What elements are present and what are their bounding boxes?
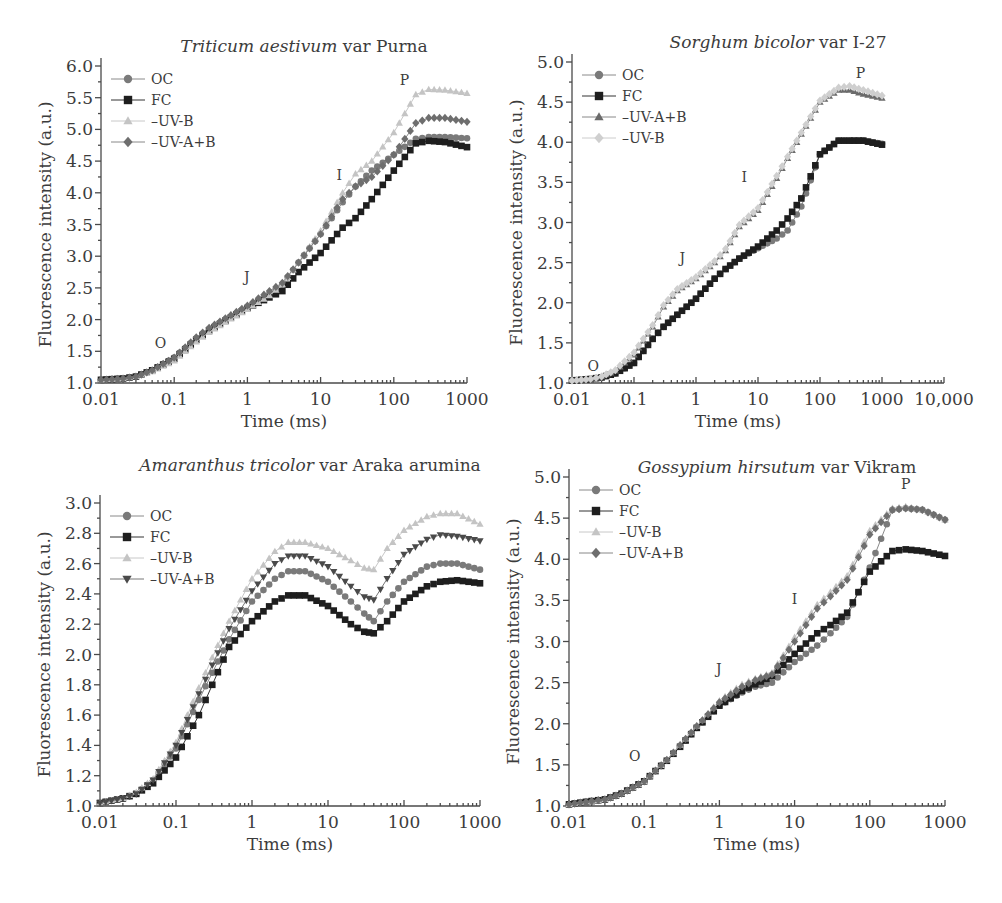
y-axis-title: Fluorescence intensity (a.u.) [503,518,523,764]
data-point-marker [401,110,408,116]
data-point-marker [797,655,804,662]
legend-item: FC [110,529,170,545]
y-tick-label: 5.0 [537,52,564,72]
legend-item: –UV-B [582,130,665,146]
data-point-marker [379,182,386,189]
data-point-marker [237,631,244,638]
chart-title-species: Amaranthus tricolor [137,455,314,475]
data-point-marker [302,568,309,575]
legend-label: –UV-A+B [622,109,686,125]
data-point-marker [401,578,408,585]
y-tick-label: 2.5 [534,673,561,693]
chart-title-variety: var Vikram [815,457,916,477]
y-tick-label: 1.2 [65,766,92,786]
data-point-marker [878,535,885,542]
data-point-marker [260,587,267,594]
chart-title-species: Gossypium hirsutum [638,457,816,477]
chart-sorghum: Sorghum bicolor var I-270.010.1110100100… [506,32,974,431]
data-point-marker [437,560,444,567]
phase-label-p: P [400,72,409,88]
data-point-marker [400,526,407,532]
legend-marker-icon [595,92,603,100]
data-point-marker [278,543,285,549]
legend-label: FC [622,88,642,104]
data-point-marker [328,237,335,244]
data-point-marker [254,592,261,599]
legend-marker-icon [124,96,132,104]
legend-label: FC [619,503,639,519]
data-point-marker [323,243,330,250]
data-point-marker [406,575,413,582]
data-point-marker [377,608,384,615]
y-tick-label: 6.0 [66,56,93,76]
data-point-marker [803,184,810,191]
data-point-marker [202,697,209,704]
data-point-marker [418,516,425,522]
legend-item: OC [111,71,173,87]
figure-canvas: Triticum aestivum var Purna0.010.1110100… [0,0,1002,903]
x-tick-label: 1000 [445,389,488,409]
phase-label-p: P [856,65,865,81]
data-point-marker [855,589,862,596]
series-line [572,141,882,381]
data-point-marker [448,577,455,584]
data-point-marker [850,599,857,606]
data-point-marker [370,597,377,603]
data-point-marker [412,571,419,578]
data-point-marker [773,227,780,234]
y-tick-label: 3.0 [534,632,561,652]
data-point-marker [161,767,168,774]
chart-title: Triticum aestivum var Purna [180,36,427,56]
data-point-marker [889,548,896,555]
y-tick-label: 1.0 [66,373,93,393]
y-tick-label: 3.5 [66,215,93,235]
data-point-marker [814,642,821,649]
data-point-marker [336,588,343,595]
data-point-marker [791,651,798,658]
data-point-marker [178,744,185,751]
data-point-marker [418,541,425,547]
data-point-marker [167,761,174,768]
y-tick-label: 1.8 [65,675,92,695]
legend-marker-icon [122,553,131,561]
legend-label: OC [151,71,173,87]
data-point-marker [464,135,471,142]
legend-item: –UV-A+B [579,545,683,561]
legend-marker-icon [123,512,131,520]
data-point-marker [406,594,413,601]
legend-marker-icon [123,137,132,148]
data-point-marker [793,202,800,209]
data-point-marker [249,618,256,625]
data-point-marker [243,624,250,631]
legend-item: –UV-B [110,550,193,566]
x-tick-label: 1 [714,812,725,832]
x-axis-title: Time (ms) [714,834,800,854]
data-point-marker [430,562,437,569]
x-tick-label: 10,000 [914,389,973,409]
data-point-marker [883,553,890,560]
y-tick-label: 3.0 [66,246,93,266]
data-point-marker [930,550,937,557]
x-tick-label: 0.1 [161,389,188,409]
legend-label: OC [619,482,641,498]
data-point-marker [342,616,349,623]
data-point-marker [308,571,315,578]
data-point-marker [330,583,337,590]
data-point-marker [363,202,370,209]
series-fc [98,138,471,384]
y-tick-label: 2.2 [65,614,92,634]
y-tick-label: 1.0 [65,796,92,816]
phase-label-o: O [629,748,640,764]
data-point-marker [878,558,885,565]
data-point-marker [345,179,352,185]
y-tick-label: 2.0 [537,293,564,313]
legend-marker-icon [595,71,603,79]
data-point-marker [460,562,467,569]
series-fc [97,577,484,806]
data-point-marker [423,537,430,543]
data-point-marker [407,147,414,154]
data-point-marker [260,608,267,615]
data-point-marker [389,592,396,599]
y-tick-label: 2.5 [537,253,564,273]
x-axis-title: Time (ms) [247,834,333,854]
